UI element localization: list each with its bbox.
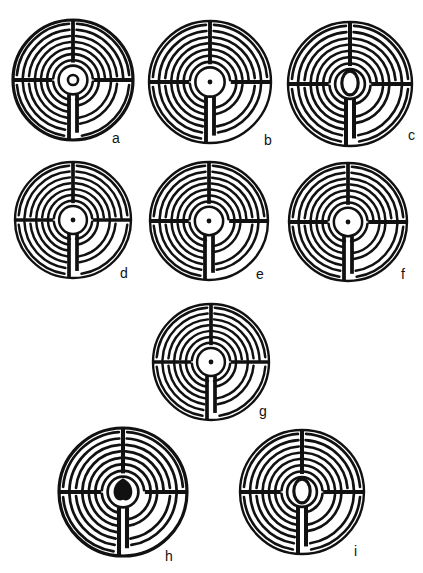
center-blob-dot (195, 207, 223, 235)
labyrinth-b (145, 17, 275, 147)
center-teardrop (108, 477, 139, 508)
figure-label-c: c (408, 128, 415, 142)
labyrinth-c (284, 18, 416, 150)
center-keyhole (59, 66, 88, 95)
figure-label-d: d (120, 266, 128, 280)
figure-label-h: h (165, 549, 173, 563)
figure-label-b: b (264, 133, 272, 147)
labyrinth-e (146, 158, 272, 284)
center-dot-ring (334, 208, 362, 236)
center-loop (335, 69, 365, 99)
labyrinth-g (149, 300, 273, 424)
figure-label-a: a (112, 131, 120, 145)
labyrinth-i (236, 426, 368, 558)
figure-label-g: g (259, 404, 267, 418)
center-rosette (197, 348, 225, 376)
center-dot-ring (59, 206, 87, 234)
center-blob-dot (195, 67, 224, 96)
labyrinth-a (9, 16, 137, 144)
labyrinth-d (11, 158, 135, 282)
labyrinth-h (55, 424, 191, 560)
figure-label-i: i (354, 544, 357, 558)
labyrinth-f (285, 159, 411, 285)
center-loop (287, 477, 317, 507)
figure-label-e: e (256, 267, 264, 281)
figure-label-f: f (401, 267, 405, 281)
